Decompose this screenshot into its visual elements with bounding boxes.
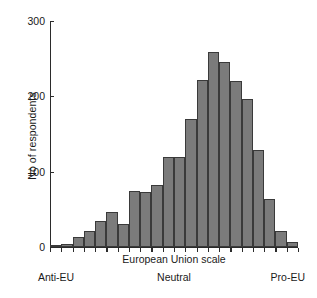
x-axis-tick [185,248,186,252]
histogram-bar [275,231,286,247]
scale-label-pro-eu: Pro-EU [271,271,305,283]
y-axis-title: No of respondents [26,56,38,216]
x-axis-tick [95,248,96,252]
histogram-bar [106,212,117,247]
x-axis-tick [208,248,209,252]
histogram-bar [242,99,253,247]
x-axis-tick [163,248,164,252]
histogram-bar [185,119,196,247]
x-axis-tick [118,248,119,252]
x-axis-tick [61,248,62,252]
scale-label-neutral: Neutral [50,271,298,283]
x-axis-tick [197,248,198,252]
y-axis-label-200: 200 [5,91,45,101]
x-axis-tick [242,248,243,252]
histogram-bar [95,221,106,247]
histogram-bar [253,150,264,247]
histogram-bar [84,231,95,247]
x-axis-tick [287,248,288,252]
histogram-bar [230,81,241,247]
x-axis-tick [73,248,74,252]
histogram-bar [208,52,219,247]
x-axis-tick [151,248,152,252]
x-axis-tick [275,248,276,252]
x-axis-tick [264,248,265,252]
y-axis-label-0: 0 [5,242,45,252]
x-axis-tick [129,248,130,252]
histogram-bar [163,157,174,247]
x-axis-tick [106,248,107,252]
x-axis-tick [50,248,51,252]
x-axis-tick [230,248,231,252]
histogram-bar [140,192,151,247]
histogram-bar [151,185,162,247]
x-axis-tick [298,248,299,252]
histogram-bar [129,191,140,248]
histogram-bar [219,62,230,247]
y-axis-label-100: 100 [5,167,45,177]
histogram-bar [197,80,208,247]
histogram-bar [174,157,185,247]
x-axis-tick [253,248,254,252]
x-axis-tick [174,248,175,252]
x-axis-tick [140,248,141,252]
histogram-bar [118,224,129,247]
bars-container [50,21,298,247]
y-axis-label-300: 300 [5,16,45,26]
x-axis-tick [84,248,85,252]
histogram-bar [264,199,275,247]
x-axis-tick [219,248,220,252]
histogram-figure: No of respondents 300 200 100 0 European… [0,0,317,298]
histogram-bar [73,237,84,247]
x-axis-title: European Union scale [50,253,298,265]
